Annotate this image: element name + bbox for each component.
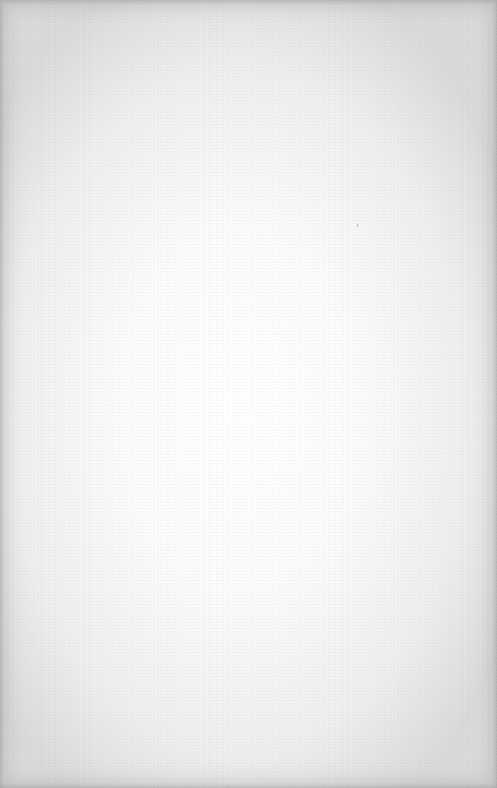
paper-speck	[357, 224, 358, 227]
blank-paper-sheet	[0, 0, 497, 788]
paper-grain-texture	[0, 0, 497, 788]
paper-edge-vignette	[0, 0, 497, 788]
